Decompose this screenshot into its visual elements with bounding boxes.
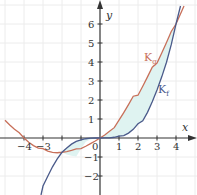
- x-tick-label-4: 4: [173, 141, 179, 152]
- x-tick-label--4: −4: [17, 141, 32, 152]
- x-tick-label-1: 1: [116, 141, 122, 152]
- x-axis-label: x: [182, 121, 189, 134]
- y-tick-label-6: 6: [88, 19, 94, 30]
- x-tick-label-2: 2: [135, 141, 141, 152]
- y-tick-label-5: 5: [88, 38, 94, 49]
- x-tick-label-0: 0: [92, 141, 98, 152]
- chart: −4 −3 0 1 2 3 4 6 5 4 3 2 1 −1 −2 x y Kg…: [0, 0, 197, 195]
- y-tick-label-3: 3: [88, 76, 94, 87]
- y-axis-label: y: [105, 9, 113, 22]
- y-tick-label--1: −1: [84, 152, 99, 163]
- x-axis-arrow-icon: [188, 135, 197, 141]
- x-tick-label-3: 3: [154, 141, 160, 152]
- kg-label: Kg: [144, 51, 157, 66]
- kf-label: Kf: [158, 83, 170, 98]
- y-tick-label--2: −2: [84, 171, 99, 182]
- y-tick-label-1: 1: [88, 114, 94, 125]
- y-tick-label-2: 2: [88, 95, 94, 106]
- y-tick-label-4: 4: [88, 57, 94, 68]
- x-tick-label--3: −3: [36, 141, 51, 152]
